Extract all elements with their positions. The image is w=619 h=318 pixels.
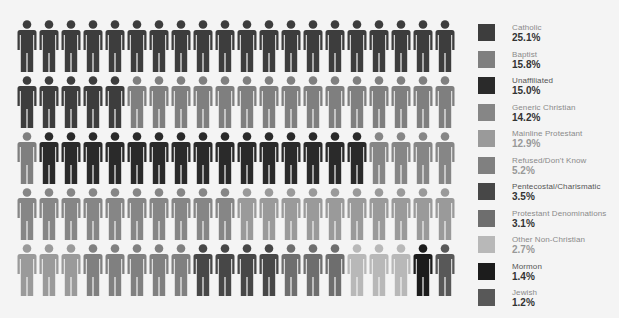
pictogram-row: [16, 244, 464, 300]
person-icon: [258, 20, 280, 74]
person-icon: [324, 20, 346, 74]
pictogram-row: [16, 76, 464, 132]
legend-label: Mainline Protestant: [512, 129, 582, 138]
legend-item-mainline-protestant: Mainline Protestant 12.9%: [476, 128, 619, 155]
person-icon: [16, 132, 38, 186]
legend-label: Refused/Don't Know: [512, 156, 586, 165]
person-icon: [434, 20, 456, 74]
person-icon: [280, 76, 302, 130]
person-icon: [82, 132, 104, 186]
person-icon: [214, 132, 236, 186]
person-icon: [368, 76, 390, 130]
person-icon: [126, 244, 148, 298]
person-icon: [236, 20, 258, 74]
person-icon: [434, 244, 456, 298]
legend-label: Pentecostal/Charismatic: [512, 182, 601, 191]
person-icon: [38, 188, 60, 242]
person-icon: [126, 20, 148, 74]
person-icon: [412, 76, 434, 130]
person-icon: [236, 188, 258, 242]
pictogram-row: [16, 20, 464, 76]
person-icon: [412, 188, 434, 242]
person-icon: [236, 76, 258, 130]
person-icon: [126, 76, 148, 130]
legend-value: 1.2%: [512, 297, 535, 308]
person-icon: [60, 188, 82, 242]
person-icon: [148, 76, 170, 130]
person-icon: [82, 20, 104, 74]
legend-value: 1.4%: [512, 271, 535, 282]
color-swatch: [478, 236, 495, 253]
legend: Catholic 25.1% Baptist 15.8% Unaffiliate…: [476, 22, 619, 314]
person-icon: [258, 188, 280, 242]
legend-item-protestant-denominations: Protestant Denominations 3.1%: [476, 208, 619, 235]
person-icon: [346, 20, 368, 74]
person-icon: [214, 76, 236, 130]
legend-value: 25.1%: [512, 32, 540, 43]
color-swatch: [478, 51, 495, 68]
legend-label: Jewish: [512, 288, 537, 297]
person-icon: [412, 20, 434, 74]
person-icon: [192, 132, 214, 186]
person-icon: [390, 20, 412, 74]
person-icon: [60, 132, 82, 186]
person-icon: [390, 244, 412, 298]
legend-item-mormon: Mormon 1.4%: [476, 261, 619, 288]
person-icon: [60, 244, 82, 298]
person-icon: [346, 132, 368, 186]
legend-item-jewish: Jewish 1.2%: [476, 287, 619, 314]
color-swatch: [478, 104, 495, 121]
person-icon: [126, 132, 148, 186]
person-icon: [104, 244, 126, 298]
person-icon: [346, 76, 368, 130]
person-icon: [324, 188, 346, 242]
legend-value: 15.0%: [512, 85, 540, 96]
person-icon: [368, 20, 390, 74]
legend-item-pentecostal-charismatic: Pentecostal/Charismatic 3.5%: [476, 181, 619, 208]
person-icon: [126, 188, 148, 242]
color-swatch: [478, 157, 495, 174]
person-icon: [324, 244, 346, 298]
person-icon: [60, 76, 82, 130]
person-icon: [302, 132, 324, 186]
person-icon: [192, 76, 214, 130]
person-icon: [302, 188, 324, 242]
person-icon: [434, 132, 456, 186]
legend-item-catholic: Catholic 25.1%: [476, 22, 619, 49]
person-icon: [280, 132, 302, 186]
person-icon: [170, 132, 192, 186]
person-icon: [82, 188, 104, 242]
person-icon: [390, 132, 412, 186]
legend-label: Mormon: [512, 262, 542, 271]
legend-value: 12.9%: [512, 138, 540, 149]
person-icon: [412, 244, 434, 298]
legend-item-generic-christian: Generic Christian 14.2%: [476, 102, 619, 129]
person-icon: [302, 244, 324, 298]
person-icon: [412, 132, 434, 186]
person-icon: [38, 76, 60, 130]
legend-label: Unaffiliated: [512, 76, 553, 85]
person-icon: [38, 20, 60, 74]
person-icon: [148, 132, 170, 186]
color-swatch: [478, 289, 495, 306]
person-icon: [434, 188, 456, 242]
person-icon: [38, 244, 60, 298]
person-icon: [258, 244, 280, 298]
person-icon: [170, 244, 192, 298]
person-icon: [16, 20, 38, 74]
person-icon: [104, 132, 126, 186]
person-icon: [280, 244, 302, 298]
person-icon: [60, 20, 82, 74]
color-swatch: [478, 183, 495, 200]
color-swatch: [478, 263, 495, 280]
person-icon: [280, 188, 302, 242]
person-icon: [104, 188, 126, 242]
person-icon: [148, 20, 170, 74]
pictogram-grid: [16, 20, 464, 300]
person-icon: [192, 188, 214, 242]
legend-value: 14.2%: [512, 112, 540, 123]
legend-label: Generic Christian: [512, 103, 576, 112]
legend-item-baptist: Baptist 15.8%: [476, 49, 619, 76]
legend-value: 15.8%: [512, 59, 540, 70]
person-icon: [148, 244, 170, 298]
